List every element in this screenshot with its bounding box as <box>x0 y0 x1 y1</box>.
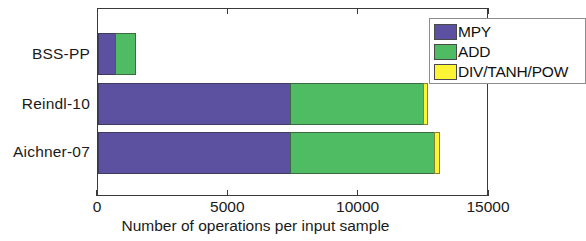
bar-segment-bss-pp-add <box>115 33 136 75</box>
x-axis-tick-label: 5000 <box>210 198 244 216</box>
legend-swatch-add <box>434 44 457 60</box>
y-axis-label-reindl-10: Reindl-10 <box>6 95 90 113</box>
x-axis-tick-label: 0 <box>93 198 102 216</box>
x-axis-tick-mark-top <box>227 8 229 14</box>
bar-group-aichner-07 <box>98 132 440 174</box>
bar-group-reindl-10 <box>98 83 428 125</box>
x-axis-tick-mark <box>357 190 359 196</box>
legend-label-div-tanh-pow: DIV/TANH/POW <box>458 64 568 80</box>
x-axis-tick-mark <box>487 190 489 196</box>
x-axis-title: Number of operations per input sample <box>0 217 511 235</box>
plot-area: MPY ADD DIV/TANH/POW <box>97 8 488 196</box>
x-axis-tick-label: 10000 <box>336 198 379 216</box>
legend-swatch-mpy <box>434 24 457 40</box>
legend-item-mpy: MPY <box>434 22 583 41</box>
y-axis-label-bss-pp: BSS-PP <box>10 45 90 63</box>
x-axis-tick-label: 15000 <box>466 198 509 216</box>
legend-item-add: ADD <box>434 42 583 61</box>
bar-segment-reindl-10-add <box>290 83 424 125</box>
bar-segment-reindl-10-mpy <box>98 83 291 125</box>
bar-segment-aichner-07-mpy <box>98 132 291 174</box>
bar-group-bss-pp <box>98 33 136 75</box>
bar-segment-bss-pp-mpy <box>98 33 116 75</box>
x-axis-tick-mark-top <box>357 8 359 14</box>
bar-segment-aichner-07-div <box>434 132 440 174</box>
legend-item-div-tanh-pow: DIV/TANH/POW <box>434 62 583 81</box>
x-axis-tick-mark-top <box>487 8 489 14</box>
legend-swatch-div-tanh-pow <box>434 64 457 80</box>
x-axis-tick-mark <box>227 190 229 196</box>
x-axis-tick-mark <box>96 190 98 196</box>
y-axis-label-aichner-07: Aichner-07 <box>0 143 90 161</box>
legend-label-mpy: MPY <box>458 24 491 40</box>
bar-segment-reindl-10-div <box>423 83 428 125</box>
bar-segment-aichner-07-add <box>290 132 435 174</box>
legend-label-add: ADD <box>458 44 490 60</box>
chart-legend: MPY ADD DIV/TANH/POW <box>429 18 586 84</box>
